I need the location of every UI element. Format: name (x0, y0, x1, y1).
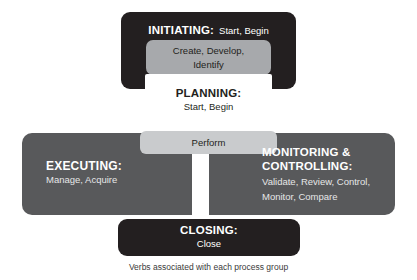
closing-title: CLOSING: (180, 224, 238, 238)
create-develop-verbs-line1: Create, Develop, (173, 44, 244, 58)
monitoring-title-line2: CONTROLLING: (262, 160, 353, 174)
executing-verbs: Manage, Acquire (46, 174, 117, 187)
planning-title: PLANNING: (176, 87, 242, 101)
diagram-caption: Verbs associated with each process group (0, 262, 417, 272)
executing-process-group-box: EXECUTING: Manage, Acquire (34, 145, 184, 201)
perform-verbs: Perform (192, 137, 226, 148)
initiating-title: INITIATING: (148, 24, 214, 36)
band-center-notch (192, 150, 209, 222)
monitoring-controlling-process-group-box: MONITORING & CONTROLLING: Validate, Revi… (262, 139, 394, 211)
create-develop-identify-box: Create, Develop, Identify (146, 40, 271, 75)
monitoring-verbs-line1: Validate, Review, Control, (262, 176, 370, 189)
planning-verbs: Start, Begin (184, 101, 234, 113)
closing-verbs: Close (197, 238, 221, 250)
closing-process-group-box: CLOSING: Close (118, 219, 300, 256)
monitoring-title-line1: MONITORING & (262, 146, 350, 160)
initiating-verbs: Start, Begin (219, 25, 269, 36)
initiating-line: INITIATING:Start, Begin (148, 20, 269, 38)
process-group-diagram: INITIATING:Start, Begin Create, Develop,… (0, 0, 417, 280)
planning-process-group-box: PLANNING: Start, Begin (145, 74, 272, 130)
monitoring-verbs-line2: Monitor, Compare (262, 191, 338, 204)
create-develop-verbs-line2: Identify (193, 58, 224, 72)
executing-title: EXECUTING: (46, 159, 122, 174)
